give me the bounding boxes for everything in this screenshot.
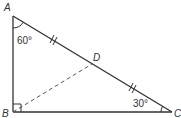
label-c: C [174,108,181,118]
label-b: B [2,108,9,118]
angle-label-a: 60° [17,35,32,46]
label-a: A [3,2,11,13]
angle-arc-a [13,22,23,28]
triangle-diagram: A B C D 60° 30° [0,0,181,118]
angle-label-c: 30° [133,98,148,109]
label-d: D [93,52,100,63]
angle-arc-c [161,106,163,112]
median-bd [13,64,92,112]
side-ac [13,16,172,112]
